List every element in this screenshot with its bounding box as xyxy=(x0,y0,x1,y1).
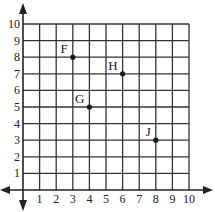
x-tick-labels: 12345678910 xyxy=(37,192,195,206)
y-tick-label: 7 xyxy=(14,67,20,81)
y-tick-label: 5 xyxy=(14,100,20,114)
x-tick-label: 5 xyxy=(103,192,109,206)
x-tick-label: 10 xyxy=(183,192,195,206)
y-tick-label: 6 xyxy=(14,83,20,97)
x-tick-label: 8 xyxy=(153,192,159,206)
point-marker xyxy=(120,71,125,76)
x-axis-right-arrow-icon xyxy=(203,186,213,194)
y-tick-labels: 12345678910 xyxy=(8,17,20,180)
x-tick-label: 2 xyxy=(53,192,59,206)
x-tick-label: 1 xyxy=(37,192,43,206)
point-marker xyxy=(153,138,158,143)
y-tick-label: 1 xyxy=(14,166,20,180)
y-axis-up-arrow-icon xyxy=(19,3,27,14)
point-label: H xyxy=(108,58,117,73)
x-tick-label: 7 xyxy=(136,192,142,206)
point-label: J xyxy=(146,124,151,139)
point-marker xyxy=(87,104,92,109)
y-tick-label: 10 xyxy=(8,17,20,31)
point-marker xyxy=(70,55,75,60)
x-axis-left-arrow-icon xyxy=(0,186,10,194)
y-axis-down-arrow-icon xyxy=(19,200,27,211)
grid-lines xyxy=(23,24,189,190)
x-tick-label: 4 xyxy=(86,192,92,206)
data-points: FGHJ xyxy=(61,41,159,143)
point-label: G xyxy=(75,91,84,106)
y-tick-label: 3 xyxy=(14,133,20,147)
y-tick-label: 4 xyxy=(14,117,20,131)
x-tick-label: 9 xyxy=(169,192,175,206)
x-tick-label: 6 xyxy=(120,192,126,206)
y-tick-label: 9 xyxy=(14,34,20,48)
x-tick-label: 3 xyxy=(70,192,76,206)
y-tick-label: 2 xyxy=(14,150,20,164)
y-tick-label: 8 xyxy=(14,50,20,64)
coordinate-grid: 12345678910 12345678910 FGHJ xyxy=(0,0,215,212)
point-label: F xyxy=(61,41,68,56)
